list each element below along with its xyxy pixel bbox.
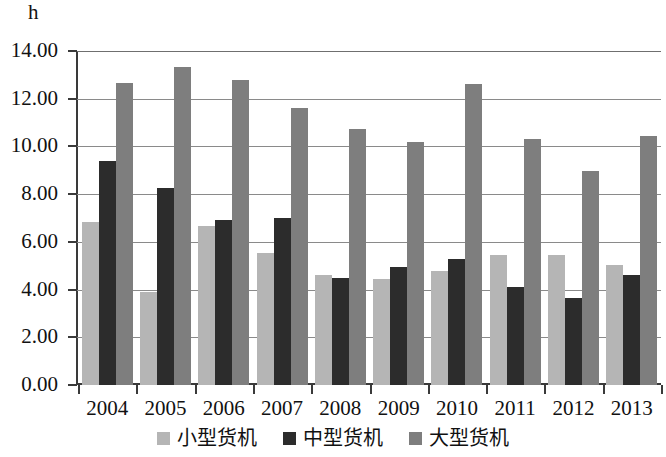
legend-label: 大型货机 [429,428,509,448]
legend-label: 中型货机 [303,428,383,448]
bar-group [311,51,369,385]
y-axis-tick-label: 14.00 [11,40,58,61]
legend-item-small[interactable]: 小型货机 [157,428,257,448]
y-axis-tick-mark [68,193,77,195]
legend-swatch-icon [409,432,422,445]
bar-small-2008 [315,275,332,385]
y-axis-tick-mark [68,50,77,52]
legend-swatch-icon [283,432,296,445]
bar-group [428,51,486,385]
bar-large-2007 [291,108,308,385]
bar-small-2011 [490,255,507,385]
x-axis-tick-label: 2009 [369,394,427,424]
y-axis-tick-mark [68,336,77,338]
x-axis-tick-label: 2005 [136,394,194,424]
bar-group [603,51,661,385]
bar-medium-2005 [157,188,174,385]
bar-large-2012 [582,171,599,385]
bar-small-2013 [606,265,623,385]
bar-small-2005 [140,292,157,385]
bar-medium-2011 [507,287,524,385]
y-axis-unit-label: h [28,2,39,23]
bar-large-2011 [524,139,541,385]
y-axis-tick-mark [68,384,77,386]
bar-medium-2004 [99,161,116,385]
y-axis-tick-label: 6.00 [21,231,58,252]
bar-group [544,51,602,385]
bar-medium-2008 [332,278,349,385]
y-axis-tick-label: 8.00 [21,183,58,204]
y-axis-tick-label: 4.00 [21,279,58,300]
x-axis-tick-label: 2007 [253,394,311,424]
x-axis-tick-mark [311,385,313,394]
bar-large-2006 [232,80,249,385]
bar-group [369,51,427,385]
y-axis-tick-mark [68,289,77,291]
x-axis-tick-mark [253,385,255,394]
bar-small-2006 [198,226,215,385]
x-axis-tick-mark [428,385,430,394]
y-axis-tick-mark [68,241,77,243]
y-axis-tick-label: 12.00 [11,88,58,109]
x-axis-labels: 2004200520062007200820092010201120122013 [78,394,661,424]
bar-medium-2007 [274,218,291,385]
bar-group [136,51,194,385]
x-axis-tick-mark [603,385,605,394]
bar-medium-2013 [623,275,640,385]
y-axis-tick-mark [68,145,77,147]
x-axis-tick-mark [544,385,546,394]
legend: 小型货机中型货机大型货机 [0,428,666,448]
bar-small-2012 [548,255,565,385]
x-axis-tick-mark [661,385,663,394]
y-axis-tick-mark [68,98,77,100]
bar-large-2013 [640,136,657,385]
x-axis-tick-mark [370,385,372,394]
x-axis-tick-label: 2006 [195,394,253,424]
x-axis-tick-mark [78,385,80,394]
legend-swatch-icon [157,432,170,445]
bar-small-2010 [431,271,448,386]
bar-small-2009 [373,279,390,385]
bar-large-2009 [407,142,424,385]
y-axis-tick-label: 2.00 [21,326,58,347]
bar-large-2008 [349,129,366,385]
y-axis-tick-label: 0.00 [21,374,58,395]
bar-chart: h 14.0012.0010.008.006.004.002.000.00 20… [0,0,666,457]
legend-item-large[interactable]: 大型货机 [409,428,509,448]
x-axis-tick-label: 2012 [544,394,602,424]
bar-group [253,51,311,385]
bar-medium-2006 [215,220,232,385]
bar-large-2004 [116,83,133,385]
x-axis-tick-label: 2013 [603,394,661,424]
bar-medium-2009 [390,267,407,385]
x-axis-tick-label: 2008 [311,394,369,424]
x-axis-tick-label: 2010 [428,394,486,424]
x-axis-tick-mark [195,385,197,394]
bar-large-2010 [465,84,482,385]
x-axis-tick-label: 2004 [78,394,136,424]
bar-group [195,51,253,385]
legend-item-medium[interactable]: 中型货机 [283,428,383,448]
x-axis-tick-label: 2011 [486,394,544,424]
bar-large-2005 [174,67,191,385]
bar-groups [78,51,661,385]
x-axis-tick-mark [486,385,488,394]
bar-medium-2010 [448,259,465,385]
y-axis-tick-label: 10.00 [11,135,58,156]
bar-group [486,51,544,385]
bar-small-2007 [257,253,274,385]
bar-small-2004 [82,222,99,385]
legend-label: 小型货机 [177,428,257,448]
x-axis-tick-mark [136,385,138,394]
bar-medium-2012 [565,298,582,385]
bar-group [78,51,136,385]
